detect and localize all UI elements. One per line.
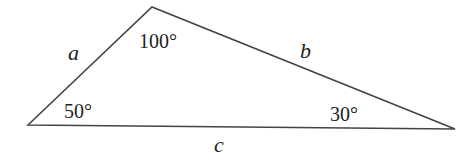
triangle-shape	[28, 7, 455, 129]
side-b-label: b	[300, 38, 311, 63]
triangle-diagram: a b c 100° 50° 30°	[0, 0, 457, 158]
side-a-label: a	[68, 40, 79, 65]
angle-right-label: 30°	[330, 103, 358, 125]
angle-top-label: 100°	[139, 30, 177, 52]
angle-left-label: 50°	[64, 100, 92, 122]
side-c-label: c	[214, 132, 224, 157]
